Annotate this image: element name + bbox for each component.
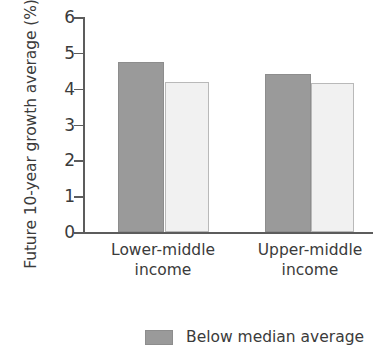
bar-chart-figure: Future 10-year growth average (%) 0 1 2 …: [0, 0, 380, 350]
bar-upper-middle-above-median: [311, 83, 354, 232]
bar-lower-middle-below-median: [118, 62, 164, 232]
x-axis-label-lower-middle-income: Lower-middle income: [78, 241, 248, 281]
chart-legend: Below median average: [145, 328, 364, 346]
plot-area: 0 1 2 3 4 5 6: [83, 17, 373, 232]
y-tick-label: 6: [64, 9, 75, 26]
y-tick-label: 3: [64, 116, 75, 133]
y-tick-mark: [74, 160, 83, 162]
x-axis-line: [74, 232, 373, 234]
y-tick-mark: [74, 53, 83, 55]
x-axis-label-upper-middle-income: Upper-middle income: [225, 241, 380, 281]
legend-swatch-below-median-average: [145, 330, 173, 345]
y-tick-label: 4: [64, 80, 75, 97]
y-tick-mark: [74, 125, 83, 127]
x-axis-label-line1: Lower-middle: [78, 241, 248, 261]
bar-lower-middle-above-median: [165, 82, 209, 233]
y-axis-title: Future 10-year growth average (%): [22, 0, 40, 269]
x-axis-label-line2: income: [225, 261, 380, 281]
y-tick-mark: [74, 232, 83, 234]
y-axis-line: [83, 17, 85, 233]
y-tick-label: 5: [64, 44, 75, 61]
x-axis-label-line2: income: [78, 261, 248, 281]
legend-label-below-median-average: Below median average: [186, 328, 364, 346]
y-tick-mark: [74, 89, 83, 91]
y-tick-label: 0: [64, 224, 75, 241]
y-tick-label: 2: [64, 152, 75, 169]
x-axis-label-line1: Upper-middle: [225, 241, 380, 261]
y-tick-mark: [74, 17, 83, 19]
y-tick-label: 1: [64, 188, 75, 205]
y-tick-mark: [74, 196, 83, 198]
bar-upper-middle-below-median: [265, 74, 311, 232]
